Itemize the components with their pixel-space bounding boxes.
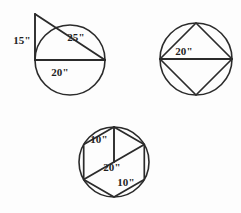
figure-3-side-label: 10" xyxy=(117,176,135,188)
figure-2-diameter-label: 20" xyxy=(175,45,193,57)
figure-1-leg-vertical-label: 15" xyxy=(13,34,31,46)
figure-3-radius-label: 10" xyxy=(90,133,108,145)
figure-1-diameter-label: 20" xyxy=(51,66,69,78)
figure-1-circle-with-right-triangle: 15" 25" 20" xyxy=(13,14,105,95)
geometry-figure-sheet: 15" 25" 20" 20" 10" 20" 10" xyxy=(0,0,241,213)
figure-2-circle-with-inscribed-square: 20" xyxy=(160,23,232,95)
figure-3-diagonal-label: 20" xyxy=(103,161,121,173)
figure-1-hypotenuse-label: 25" xyxy=(67,31,85,43)
geometry-diagram-canvas: 15" 25" 20" 20" 10" 20" 10" xyxy=(0,0,241,213)
figure-3-circle-with-inscribed-hexagon: 10" 20" 10" xyxy=(79,127,149,197)
